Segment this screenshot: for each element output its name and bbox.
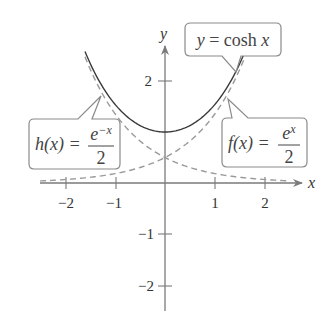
x-tick-label: −1	[106, 195, 122, 211]
y-tick-label: −2	[138, 278, 154, 294]
y-tick-label: 2	[145, 73, 153, 89]
f-callout: f(x) = ex 2	[222, 99, 307, 167]
y-axis-label: y	[158, 25, 168, 43]
svg-text:y = cosh x: y = cosh x	[195, 30, 270, 50]
cosh-graph: −2 −1 1 2 2 −1 −2 x y y = cosh x f(x) = …	[0, 0, 335, 317]
x-tick-label: 1	[211, 195, 219, 211]
y-tick-label: −1	[138, 226, 154, 242]
cosh-callout: y = cosh x	[185, 23, 281, 72]
h-callout: h(x) = e−x 2	[29, 96, 120, 169]
svg-text:2: 2	[97, 148, 106, 168]
x-tick-label: −2	[58, 195, 74, 211]
svg-text:2: 2	[285, 147, 294, 167]
svg-text:f(x) =: f(x) =	[228, 133, 270, 154]
svg-text:h(x) =: h(x) =	[35, 134, 81, 155]
x-tick-label: 2	[261, 195, 269, 211]
x-axis-label: x	[307, 174, 315, 191]
